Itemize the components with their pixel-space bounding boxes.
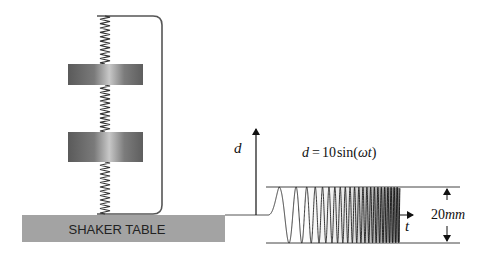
lower-mass xyxy=(68,132,143,162)
upper-mass xyxy=(68,64,143,85)
shaker-diagram: SHAKER TABLE d d=10sin(ωt) t 20mm xyxy=(0,0,491,258)
d-axis-label: d xyxy=(234,140,242,156)
shaker-table-label: SHAKER TABLE xyxy=(68,222,165,237)
top-spring xyxy=(100,16,110,64)
chirp-shading xyxy=(300,188,400,242)
middle-spring xyxy=(100,85,110,132)
t-axis-label: t xyxy=(405,218,410,234)
amplitude-label: 20mm xyxy=(431,207,465,222)
equation: d=10sin(ωt) xyxy=(302,145,377,161)
spring-icon xyxy=(100,16,110,214)
bottom-spring xyxy=(100,162,110,214)
